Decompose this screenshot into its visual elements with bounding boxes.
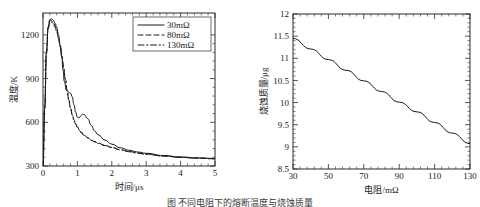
y-tick-label: 10 — [280, 98, 290, 108]
x-tick-label: 5 — [213, 168, 218, 178]
y-tick-label: 9.5 — [278, 120, 290, 130]
y-tick-label: 10.5 — [273, 76, 289, 86]
y-tick-label: 600 — [26, 117, 40, 127]
x-tick-label: 90 — [395, 171, 405, 181]
x-axis-title: 时间/μs — [115, 181, 144, 192]
x-tick-label: 4 — [178, 168, 183, 178]
x-tick-label: 2 — [110, 168, 115, 178]
temperature-vs-time-chart: 0123453006009001200时间/μs温度/K30mΩ80mΩ130m… — [0, 0, 240, 207]
x-tick-label: 110 — [428, 171, 442, 181]
y-tick-label: 8.5 — [278, 164, 290, 174]
chart-panel-temperature: 0123453006009001200时间/μs温度/K30mΩ80mΩ130m… — [0, 0, 240, 207]
y-tick-label: 11.5 — [274, 31, 290, 41]
y-tick-label: 300 — [26, 161, 40, 171]
figure-container: 0123453006009001200时间/μs温度/K30mΩ80mΩ130m… — [0, 0, 480, 207]
legend-label-2: 130mΩ — [167, 40, 195, 50]
chart-panel-ablation: 305070901101308.599.51010.51111.512电阻/mΩ… — [240, 0, 480, 207]
legend-label-1: 80mΩ — [167, 30, 190, 40]
y-tick-label: 900 — [26, 74, 40, 84]
ablation-mass-vs-resistance-chart: 305070901101308.599.51010.51111.512电阻/mΩ… — [240, 0, 480, 207]
y-axis-title: 温度/K — [8, 75, 19, 103]
legend-label-0: 30mΩ — [167, 20, 190, 30]
x-tick-label: 50 — [324, 171, 334, 181]
x-tick-label: 70 — [359, 171, 369, 181]
y-tick-label: 1200 — [21, 30, 40, 40]
x-axis-title: 电阻/mΩ — [364, 184, 399, 195]
y-tick-label: 11 — [280, 53, 289, 63]
x-tick-label: 30 — [289, 171, 299, 181]
y-axis-title: 烧蚀质量/μg — [258, 67, 269, 115]
x-tick-label: 1 — [75, 168, 80, 178]
figure-caption: 图 不同电阻下的熔断温度与烧蚀质量 — [0, 198, 480, 207]
x-tick-label: 130 — [463, 171, 477, 181]
y-tick-label: 9 — [285, 142, 290, 152]
x-tick-label: 0 — [41, 168, 46, 178]
y-tick-label: 12 — [280, 9, 289, 19]
x-tick-label: 3 — [144, 168, 149, 178]
